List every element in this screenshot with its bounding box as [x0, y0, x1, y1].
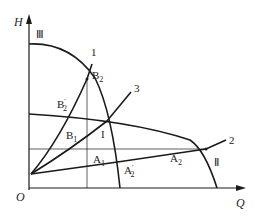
- y-axis-arrow-icon: [26, 14, 32, 24]
- point-B2-marker: [86, 78, 89, 81]
- point-B1-label: B1: [66, 129, 77, 144]
- curve-II-label: Ⅱ: [214, 156, 219, 168]
- point-B2-label: B2: [92, 69, 103, 84]
- point-A2-label: A2: [170, 152, 182, 167]
- point-A2-prime-label: A′2: [124, 163, 134, 179]
- x-axis-label: Q: [236, 196, 245, 210]
- curve-III-label: Ⅲ: [36, 28, 44, 40]
- curve-1-label: 1: [91, 46, 97, 58]
- point-B2-prime-label: B′2: [57, 97, 67, 113]
- origin-label: O: [16, 190, 25, 204]
- point-A2-marker: [205, 148, 208, 151]
- curve-2-label: 2: [229, 134, 235, 146]
- point-I-label: I: [101, 128, 105, 140]
- x-axis-arrow-icon: [236, 185, 246, 191]
- pump-characteristic-diagram: H Q O Ⅲ Ⅱ 1 3 2 B2 B′2 B1 I A1 A2 A′2: [0, 0, 257, 216]
- curve-3-label: 3: [134, 82, 140, 94]
- y-axis-label: H: [13, 15, 24, 29]
